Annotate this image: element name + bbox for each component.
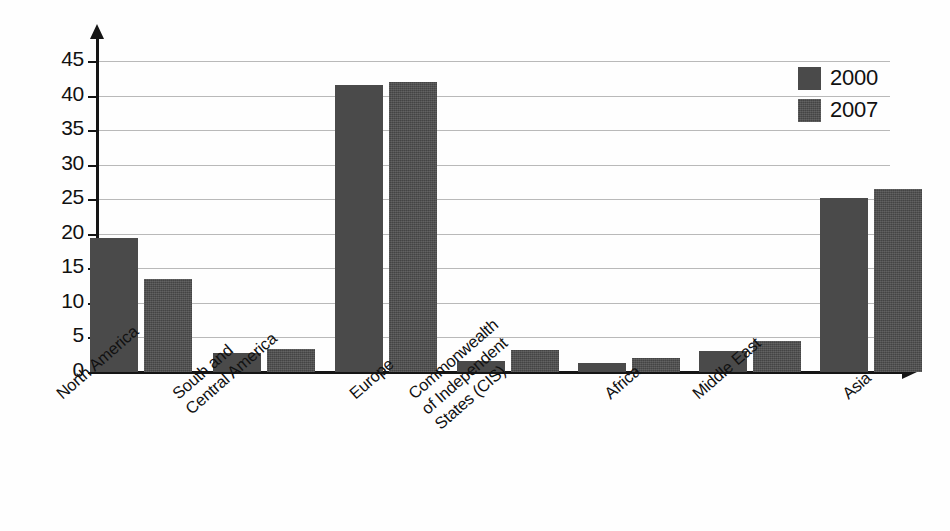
bar-2000 [335, 85, 383, 373]
bar-group [335, 0, 437, 372]
bar-chart: 051015202530354045 North AmericaSouth an… [0, 0, 950, 531]
plot-area: 051015202530354045 North AmericaSouth an… [0, 0, 950, 531]
bar-2007 [874, 189, 922, 372]
chart-legend: 2000 2007 [798, 62, 878, 126]
legend-label-2000: 2000 [830, 65, 878, 91]
legend-swatch-2000-icon [798, 67, 821, 90]
bar-group [578, 0, 680, 372]
legend-swatch-2007-icon [798, 99, 821, 122]
bar-group [90, 0, 192, 372]
legend-label-2007: 2007 [830, 97, 878, 123]
bar-2007 [144, 279, 192, 372]
bar-2007 [389, 82, 437, 372]
bar-group [699, 0, 801, 372]
bars-layer [0, 0, 950, 372]
bar-2007 [267, 349, 315, 372]
legend-item-2007: 2007 [798, 94, 878, 126]
bar-group [213, 0, 315, 372]
legend-item-2000: 2000 [798, 62, 878, 94]
bar-group [820, 0, 922, 372]
bar-group [457, 0, 559, 372]
bar-2000 [820, 198, 868, 372]
